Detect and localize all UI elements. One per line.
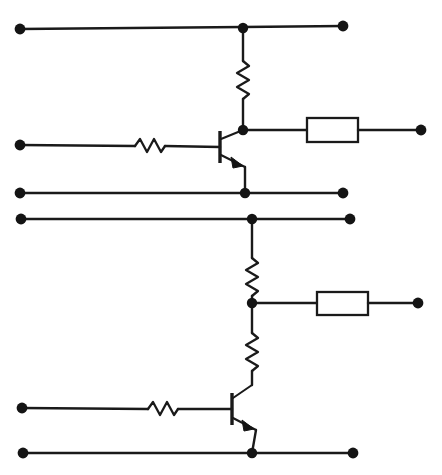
terminal-lower-ground-left bbox=[18, 448, 29, 459]
circuit-diagram bbox=[0, 0, 442, 475]
terminal-upper-output-right bbox=[416, 125, 427, 136]
lower-output-box bbox=[317, 292, 368, 315]
lower-upper-divider-resistor bbox=[246, 258, 258, 296]
terminal-upper-ground-right bbox=[338, 188, 349, 199]
terminal-upper-base-left bbox=[15, 140, 26, 151]
terminal-upper-supply-left bbox=[15, 24, 26, 35]
junction-lower-supply-node bbox=[247, 214, 257, 224]
lower-base-resistor bbox=[148, 402, 178, 415]
terminal-lower-supply-right bbox=[345, 214, 356, 225]
lower-transistor-collector-lead bbox=[233, 385, 252, 398]
terminal-upper-supply-right bbox=[338, 21, 349, 32]
upper-transistor-emitter-arrow bbox=[231, 157, 243, 168]
terminal-lower-output-right bbox=[413, 298, 424, 309]
lower-lower-divider-resistor bbox=[246, 333, 258, 371]
upper-base-resistor bbox=[135, 139, 165, 152]
terminal-upper-ground-left bbox=[15, 188, 26, 199]
junction-lower-emitter-node bbox=[247, 448, 257, 458]
upper-collector-resistor bbox=[237, 61, 249, 99]
terminal-lower-ground-right bbox=[348, 448, 359, 459]
junction-lower-divider-node bbox=[247, 298, 257, 308]
terminal-lower-supply-left bbox=[16, 214, 27, 225]
upper-output-box bbox=[307, 118, 358, 142]
upper-supply-rail bbox=[20, 26, 343, 29]
junction-upper-emitter-node bbox=[240, 188, 250, 198]
upper-base-lead-left bbox=[20, 145, 135, 146]
lower-transistor-emitter-arrow bbox=[242, 420, 254, 431]
junction-upper-supply-node bbox=[238, 23, 248, 33]
terminal-lower-base-left bbox=[17, 403, 28, 414]
circuit-canvas bbox=[0, 0, 442, 475]
lower-base-lead-left bbox=[22, 408, 148, 409]
upper-base-lead-right bbox=[165, 146, 220, 147]
junction-upper-collector-node bbox=[238, 125, 248, 135]
